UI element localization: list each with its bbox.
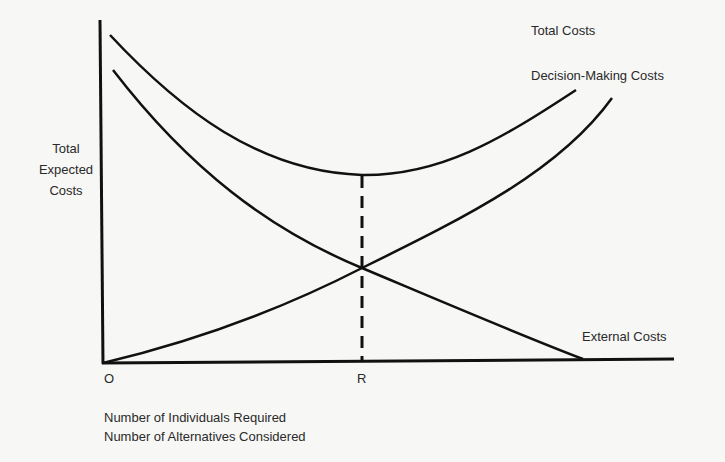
total-costs-curve (110, 35, 576, 175)
y-axis-label-line-2: Expected (36, 159, 96, 180)
x-axis-label-line-1: Number of Individuals Required (104, 408, 306, 427)
y-axis-label-line-1: Total (36, 138, 96, 159)
r-label: R (357, 370, 366, 387)
y-axis-label-line-3: Costs (36, 180, 96, 201)
x-axis-label-line-2: Number of Alternatives Considered (104, 427, 306, 446)
x-axis (102, 359, 674, 363)
decision-making-costs-curve (103, 98, 612, 363)
origin-label: O (104, 370, 114, 387)
y-axis-label: Total Expected Costs (36, 138, 96, 201)
external-costs-label: External Costs (582, 328, 667, 345)
external-costs-curve (113, 70, 583, 359)
x-axis-label: Number of Individuals Required Number of… (104, 408, 306, 446)
decision-making-costs-label: Decision-Making Costs (531, 67, 664, 84)
y-axis (100, 20, 103, 364)
total-costs-label: Total Costs (531, 22, 595, 39)
